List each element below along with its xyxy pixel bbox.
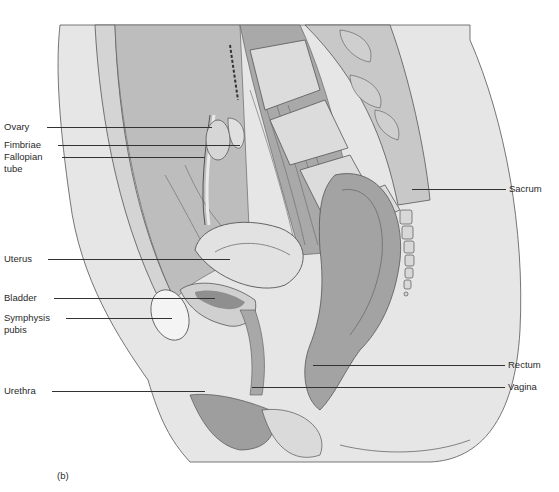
uterus-leader-line <box>48 259 230 260</box>
pelvis-illustration <box>0 0 559 492</box>
sacrum-leader-line <box>412 189 506 190</box>
fimbriae-leader-line <box>58 145 240 146</box>
label-sacrum: Sacrum <box>509 183 542 195</box>
bladder-leader-line <box>54 298 215 299</box>
fallopian-tube-leader-line <box>62 157 205 158</box>
label-vagina: Vagina <box>508 381 537 393</box>
rectum-leader-line <box>313 365 505 366</box>
label-uterus: Uterus <box>4 253 32 265</box>
label-symphysis-line2: pubis <box>4 324 50 336</box>
label-symphysis-line1: Symphysis <box>4 312 50 324</box>
label-bladder: Bladder <box>4 292 37 304</box>
ovary-leader-line <box>47 127 212 128</box>
label-rectum: Rectum <box>508 359 541 371</box>
label-ovary: Ovary <box>4 121 29 133</box>
label-fallopian-tube: Fallopian tube <box>4 151 43 175</box>
urethra-leader-line <box>52 391 205 392</box>
symphysis-pubis-leader-line <box>66 318 172 319</box>
label-fallopian-line1: Fallopian <box>4 151 43 163</box>
vagina-leader-line <box>252 387 505 388</box>
panel-label: (b) <box>57 470 69 482</box>
label-symphysis-pubis: Symphysis pubis <box>4 312 50 336</box>
label-urethra: Urethra <box>4 385 36 397</box>
label-fimbriae: Fimbriae <box>4 139 41 151</box>
label-fallopian-line2: tube <box>4 163 43 175</box>
